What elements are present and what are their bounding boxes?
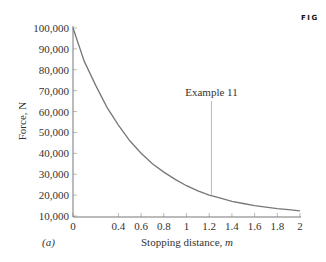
y-tick-label: 90,000 (39, 43, 70, 55)
x-tick-label: 1.6 (248, 220, 262, 232)
x-tick-label: 0.8 (157, 220, 171, 232)
x-tick-label: 2 (297, 220, 303, 232)
x-tick-label: 1.2 (202, 220, 216, 232)
y-tick-label: 70,000 (39, 85, 70, 97)
y-tick-label: 100,000 (33, 22, 69, 34)
y-axis-ticks: 10,00020,00030,00040,00050,00060,00070,0… (33, 22, 77, 222)
y-tick-label: 30,000 (39, 168, 70, 180)
x-tick-label: 0.4 (112, 220, 126, 232)
x-tick-label: 0.6 (134, 220, 148, 232)
x-axis-title: Stopping distance, m (141, 236, 233, 248)
y-tick-label: 50,000 (39, 126, 70, 138)
y-tick-label: 60,000 (39, 106, 70, 118)
panel-label: (a) (42, 236, 55, 249)
y-tick-label: 40,000 (39, 147, 70, 159)
y-tick-label: 80,000 (39, 64, 70, 76)
x-tick-label: 1.8 (270, 220, 284, 232)
y-tick-label: 20,000 (39, 189, 70, 201)
x-tick-label: 1.4 (225, 220, 239, 232)
x-axis-ticks: 00.40.60.811.21.41.61.82 (70, 213, 303, 232)
x-tick-label: 0 (70, 220, 76, 232)
force-curve (73, 28, 300, 211)
force-distance-chart: 10,00020,00030,00040,00050,00060,00070,0… (0, 0, 326, 262)
y-tick-label: 10,000 (39, 210, 70, 222)
x-tick-label: 1 (184, 220, 190, 232)
y-axis-title: Force, N (16, 102, 28, 141)
example-annotation: Example 11 (185, 86, 237, 98)
